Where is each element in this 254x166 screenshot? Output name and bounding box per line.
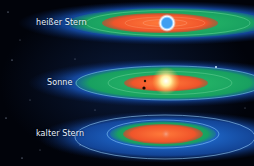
label-hot-star: heißer Stern [36,18,87,27]
label-cold-star: kalter Stern [36,129,84,138]
planet-icon [142,86,145,89]
label-sun: Sonne [47,78,73,87]
cold-star-icon [161,129,171,139]
hot-star-icon [162,18,172,28]
planet-icon [144,80,146,82]
planet-icon [215,66,217,68]
habitable-zone-diagram: heißer Stern Sonne kalter Stern [0,0,254,166]
sun-icon [152,67,180,95]
